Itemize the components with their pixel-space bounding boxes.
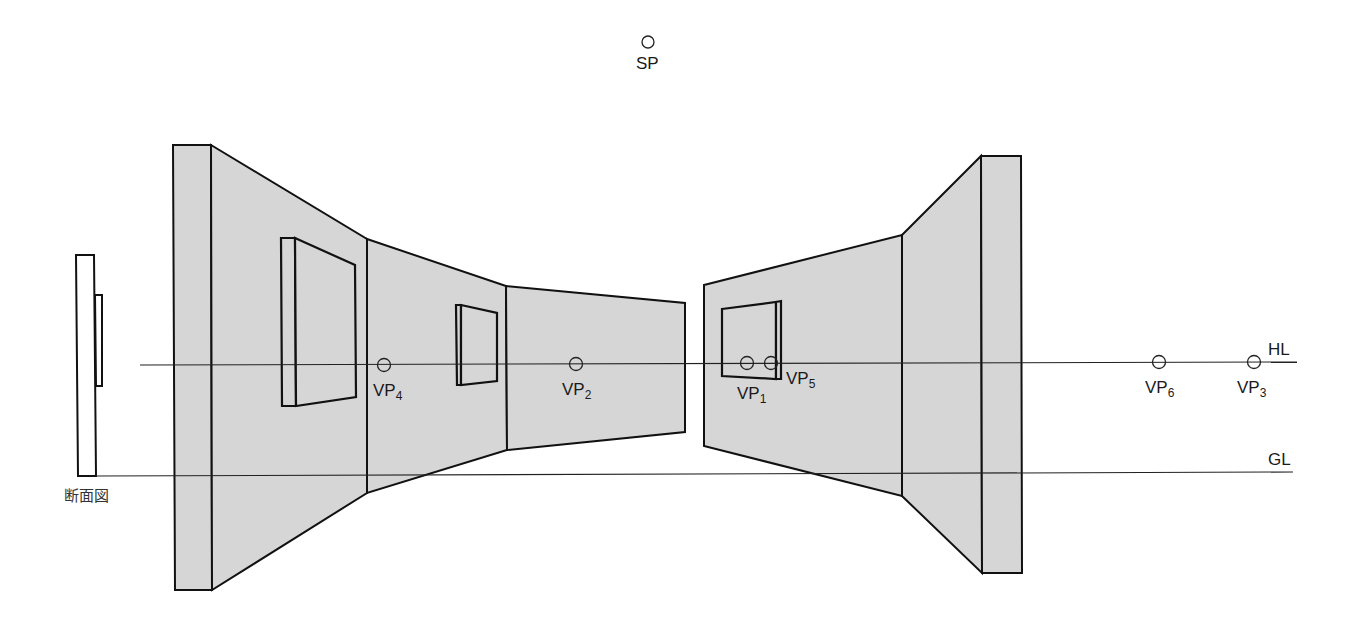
right-wall-near-panel — [902, 156, 982, 573]
station-point: SP — [636, 36, 659, 73]
ground-line-label: GL — [1268, 450, 1291, 469]
vp6-label: VP6 — [1145, 378, 1175, 400]
perspective-diagram: SP 断面図 HL GL VP4 VP2 — [0, 0, 1367, 632]
section-view: 断面図 — [64, 255, 109, 505]
left-large-frame-side — [281, 238, 296, 406]
station-point-label: SP — [636, 54, 659, 73]
right-frame-side — [776, 301, 781, 379]
horizon-line-label: HL — [1268, 340, 1290, 359]
left-wall-end-face — [173, 145, 212, 590]
right-wall-end-face — [981, 156, 1022, 573]
left-large-frame-face — [295, 238, 356, 406]
right-wall-group — [704, 156, 1022, 573]
station-point-marker — [642, 36, 654, 48]
right-frame-face — [722, 302, 776, 379]
section-wall — [76, 255, 96, 476]
left-small-frame-face — [461, 305, 497, 385]
left-wall-far-panel — [506, 286, 685, 450]
left-wall-group — [173, 145, 685, 590]
section-frame — [95, 295, 102, 386]
section-view-label: 断面図 — [64, 487, 109, 505]
vp3-label: VP3 — [1237, 378, 1267, 400]
